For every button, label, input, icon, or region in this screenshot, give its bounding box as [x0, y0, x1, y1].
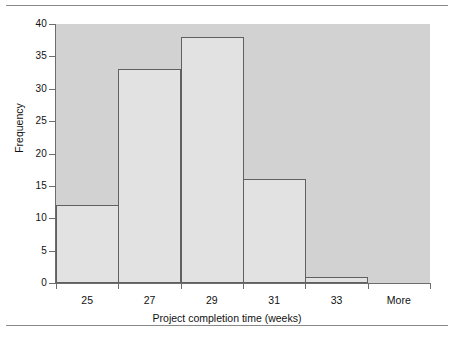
- x-tick-mark: [118, 284, 119, 289]
- x-tick-mark: [305, 284, 306, 289]
- y-tick-label: 15: [5, 181, 47, 191]
- x-tick-mark: [368, 284, 369, 289]
- y-tick-mark: [49, 24, 55, 25]
- y-tick-mark: [49, 56, 55, 57]
- y-tick-mark: [49, 154, 55, 155]
- x-tick-label: 25: [52, 294, 122, 306]
- y-tick-label: 30: [5, 84, 47, 94]
- histogram-bar: [243, 179, 306, 283]
- y-axis-title: Frequency: [13, 78, 25, 178]
- x-tick-label: 31: [239, 294, 309, 306]
- x-tick-label: 27: [115, 294, 185, 306]
- histogram-bar: [118, 69, 181, 283]
- y-tick-label: 40: [5, 19, 47, 29]
- y-tick-label: 25: [5, 116, 47, 126]
- y-tick-mark: [49, 283, 55, 284]
- y-tick-mark: [49, 89, 55, 90]
- x-tick-mark: [181, 284, 182, 289]
- y-tick-label: 20: [5, 149, 47, 159]
- x-tick-label: 29: [177, 294, 247, 306]
- histogram-bar: [181, 37, 244, 283]
- y-tick-mark: [49, 186, 55, 187]
- chart-plot-region: 0510152025303540 2527293133More Frequenc…: [0, 12, 454, 322]
- y-tick-mark: [49, 251, 55, 252]
- bottom-divider-rule: [6, 325, 448, 326]
- y-tick-label: 5: [5, 246, 47, 256]
- x-tick-label: More: [364, 294, 434, 306]
- x-tick-mark: [243, 284, 244, 289]
- y-tick-label: 0: [5, 278, 47, 288]
- x-tick-mark: [56, 284, 57, 289]
- x-tick-mark: [430, 284, 431, 289]
- top-divider-rule: [6, 5, 448, 6]
- y-tick-label: 35: [5, 51, 47, 61]
- y-tick-label: 10: [5, 213, 47, 223]
- histogram-bar: [305, 277, 368, 283]
- histogram-bar: [56, 205, 119, 283]
- x-axis-title: Project completion time (weeks): [0, 312, 454, 324]
- y-tick-mark: [49, 218, 55, 219]
- y-tick-mark: [49, 121, 55, 122]
- x-tick-label: 33: [302, 294, 372, 306]
- histogram-figure: 0510152025303540 2527293133More Frequenc…: [0, 0, 454, 340]
